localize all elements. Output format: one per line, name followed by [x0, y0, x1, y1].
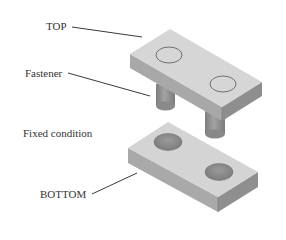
label-top: TOP [46, 21, 67, 32]
bottom-hole-2 [205, 164, 233, 181]
bottom-block [128, 122, 258, 212]
leader-line-fastener [68, 73, 150, 96]
leader-line-bottom [92, 173, 137, 194]
top-block [130, 29, 262, 121]
label-fixed-condition: Fixed condition [23, 128, 92, 139]
leader-line-top [72, 27, 142, 37]
bottom-hole-1 [154, 134, 182, 151]
label-fastener: Fastener [25, 68, 62, 79]
label-bottom: BOTTOM [40, 189, 86, 200]
